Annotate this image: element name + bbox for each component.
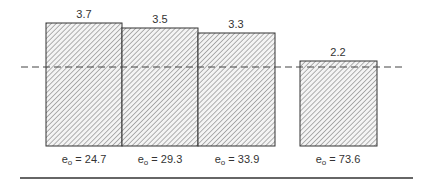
equals-sign: =: [225, 153, 238, 165]
bar-1: [46, 23, 122, 146]
bar-4: [300, 61, 377, 146]
bar-3: [198, 33, 275, 146]
equals-sign: =: [326, 153, 339, 165]
bar-3-category-label: eo = 33.9: [192, 152, 282, 170]
bar-4-category-label: eo = 73.6: [293, 152, 383, 170]
bar-3-value-label: 3.3: [198, 18, 274, 30]
bar-4-value-label: 2.2: [300, 46, 376, 58]
equals-sign: =: [72, 153, 85, 165]
bar-1-value-label: 3.7: [46, 8, 122, 20]
category-value: 73.6: [339, 153, 360, 165]
bar-2: [122, 28, 198, 146]
category-value: 24.7: [85, 153, 106, 165]
category-value: 33.9: [238, 153, 259, 165]
equals-sign: =: [148, 153, 161, 165]
bar-2-value-label: 3.5: [122, 13, 198, 25]
category-value: 29.3: [161, 153, 182, 165]
